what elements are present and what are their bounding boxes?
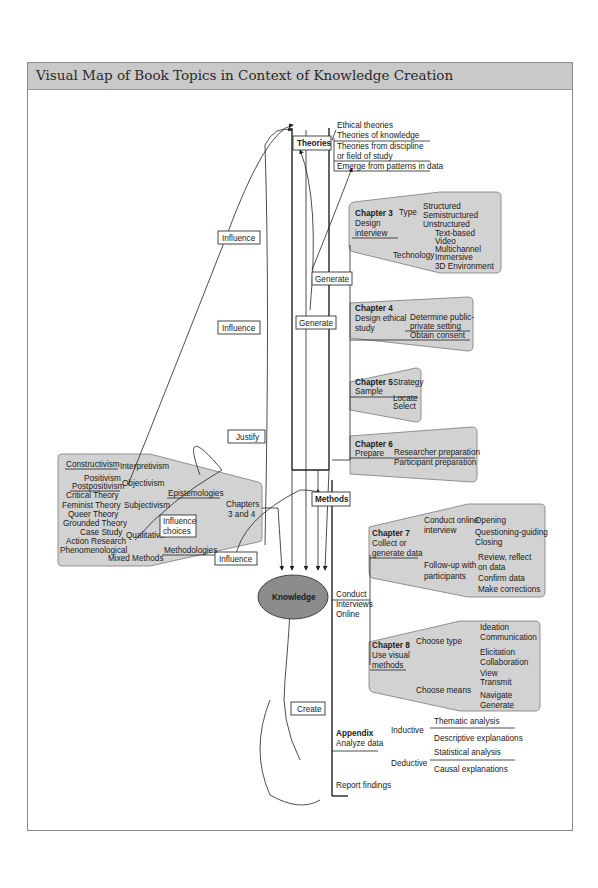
svg-text:Type: Type (399, 208, 417, 217)
svg-text:interview: interview (424, 526, 456, 535)
svg-text:View: View (480, 669, 498, 678)
svg-text:Review, reflect: Review, reflect (478, 553, 532, 562)
svg-text:Create: Create (297, 705, 322, 714)
theory-emerge: Emerge from patterns in data (337, 162, 443, 171)
svg-text:Generate: Generate (480, 701, 515, 710)
theory-discipline-1: Theories from discipline (337, 142, 424, 151)
svg-text:Critical Theory: Critical Theory (66, 491, 120, 500)
svg-text:Case Study: Case Study (80, 528, 123, 537)
svg-text:private setting: private setting (410, 322, 461, 331)
svg-text:Elicitation: Elicitation (480, 648, 515, 657)
svg-text:Follow-up with: Follow-up with (424, 561, 477, 570)
svg-text:3D Environment: 3D Environment (435, 262, 494, 271)
svg-text:Immersive: Immersive (435, 253, 473, 262)
svg-text:Thematic analysis: Thematic analysis (434, 717, 500, 726)
theories-label: Theories (297, 139, 332, 148)
svg-text:Postpositivism: Postpositivism (72, 482, 125, 491)
svg-text:Chapter 7: Chapter 7 (372, 529, 410, 538)
svg-text:Qualitative: Qualitative (126, 531, 165, 540)
theory-ethical: Ethical theories (337, 121, 393, 130)
svg-text:Statistical analysis: Statistical analysis (434, 748, 501, 757)
knowledge-label: Knowledge (272, 593, 316, 602)
svg-text:Influence: Influence (222, 234, 256, 243)
svg-text:Collaboration: Collaboration (480, 658, 529, 667)
svg-text:Interpretivism: Interpretivism (120, 462, 169, 471)
svg-text:Transmit: Transmit (480, 678, 512, 687)
svg-text:Influence: Influence (163, 517, 197, 526)
svg-text:Communication: Communication (480, 633, 537, 642)
svg-text:Justify: Justify (236, 433, 260, 442)
svg-text:Feminist Theory: Feminist Theory (62, 501, 121, 510)
svg-text:Researcher preparation: Researcher preparation (394, 448, 480, 457)
svg-text:Conduct online: Conduct online (424, 516, 479, 525)
svg-text:Chapter 6: Chapter 6 (355, 440, 393, 449)
svg-text:Report findings: Report findings (336, 781, 391, 790)
svg-text:methods: methods (372, 661, 403, 670)
svg-text:Influence: Influence (219, 555, 253, 564)
svg-text:Participant preparation: Participant preparation (394, 458, 477, 467)
methodologies-label: Methodologies (164, 546, 217, 555)
svg-text:study: study (355, 324, 375, 333)
svg-text:Opening: Opening (475, 516, 506, 525)
svg-text:Questioning-guiding: Questioning-guiding (475, 528, 548, 537)
epistemologies-label: Epistemologies (168, 489, 224, 498)
svg-text:Constructivism: Constructivism (66, 460, 120, 469)
svg-text:Confirm data: Confirm data (478, 574, 525, 583)
svg-text:Technology: Technology (393, 251, 435, 260)
svg-text:Interviews: Interviews (336, 600, 373, 609)
svg-text:Appendix: Appendix (336, 729, 374, 738)
svg-text:Collect or: Collect or (372, 539, 407, 548)
svg-text:Descriptive explanations: Descriptive explanations (434, 734, 523, 743)
svg-text:choices: choices (163, 527, 191, 536)
svg-text:Strategy: Strategy (393, 378, 424, 387)
svg-text:Objectivism: Objectivism (122, 479, 164, 488)
svg-text:Chapter 8: Chapter 8 (372, 641, 410, 650)
svg-text:Semistructured: Semistructured (423, 211, 479, 220)
svg-text:participants: participants (424, 572, 466, 581)
svg-text:Queer Theory: Queer Theory (68, 510, 119, 519)
svg-text:Deductive: Deductive (391, 759, 428, 768)
svg-text:3 and 4: 3 and 4 (228, 510, 256, 519)
theory-knowledge: Theories of knowledge (337, 131, 420, 140)
svg-text:Navigate: Navigate (480, 691, 513, 700)
svg-text:Chapter 4: Chapter 4 (355, 304, 393, 313)
svg-text:Chapter 5: Chapter 5 (355, 378, 393, 387)
svg-text:Design ethical: Design ethical (355, 314, 407, 323)
theory-discipline-2: or field of study (337, 152, 393, 161)
svg-text:Obtain consent: Obtain consent (410, 331, 466, 340)
svg-text:Structured: Structured (423, 202, 461, 211)
svg-text:Generate: Generate (315, 275, 350, 284)
svg-text:Mixed Methods: Mixed Methods (108, 554, 164, 563)
svg-text:Select: Select (393, 402, 416, 411)
svg-text:Use visual: Use visual (372, 651, 410, 660)
svg-text:Sample: Sample (355, 387, 383, 396)
svg-text:Online: Online (336, 610, 360, 619)
svg-text:Choose type: Choose type (416, 637, 462, 646)
svg-text:Determine public-: Determine public- (410, 313, 474, 322)
svg-text:Inductive: Inductive (391, 726, 424, 735)
svg-text:Choose means: Choose means (416, 686, 471, 695)
svg-text:Methods: Methods (315, 495, 349, 504)
svg-text:Chapter 3: Chapter 3 (355, 209, 393, 218)
svg-text:Chapters: Chapters (226, 500, 259, 509)
svg-text:on data: on data (478, 563, 506, 572)
svg-text:Closing: Closing (475, 538, 503, 547)
svg-text:Ideation: Ideation (480, 623, 510, 632)
svg-text:Conduct: Conduct (336, 590, 367, 599)
svg-text:Prepare: Prepare (355, 449, 385, 458)
svg-text:interview: interview (355, 229, 387, 238)
concept-map: Theories Ethical theories Theories of kn… (0, 0, 598, 888)
svg-text:Subjectivism: Subjectivism (124, 501, 170, 510)
svg-text:Design: Design (355, 219, 381, 228)
svg-text:generate data: generate data (372, 549, 423, 558)
svg-text:Grounded Theory: Grounded Theory (63, 519, 128, 528)
svg-text:Action Research: Action Research (66, 537, 127, 546)
svg-text:Generate: Generate (299, 319, 334, 328)
svg-text:Analyze data: Analyze data (336, 739, 384, 748)
svg-text:Unstructured: Unstructured (423, 220, 470, 229)
svg-text:Influence: Influence (222, 324, 256, 333)
svg-text:Causal explanations: Causal explanations (434, 765, 508, 774)
svg-text:Make corrections: Make corrections (478, 585, 540, 594)
